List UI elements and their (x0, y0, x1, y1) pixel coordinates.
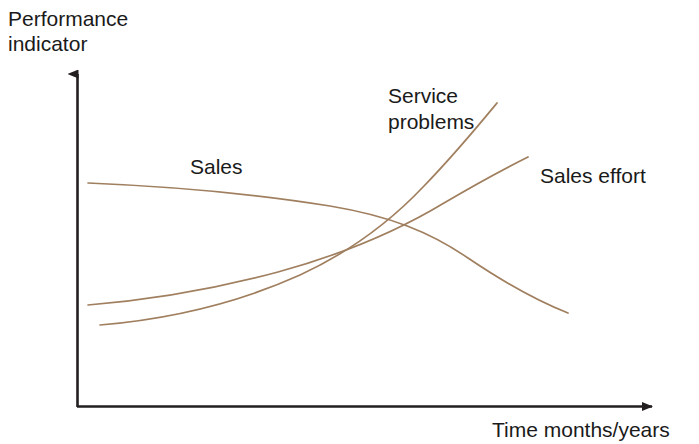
series-curve-sales-effort (88, 157, 528, 305)
y-axis-label-line-2: indicator (8, 32, 87, 55)
y-axis-label-line-1: Performance (8, 7, 128, 30)
series-label-service-problems-line-2: problems (388, 110, 474, 133)
series-label-service-problems: Serviceproblems (388, 83, 474, 135)
series-label-sales-effort: Sales effort (540, 163, 646, 188)
chart-figure: Performanceindicator Time months/years S… (0, 0, 699, 444)
x-axis-label: Time months/years (492, 417, 670, 442)
series-curve-sales (88, 183, 568, 313)
y-axis-label: Performanceindicator (8, 6, 128, 56)
series-curve-service-problems (100, 103, 497, 325)
chart-plot-area (0, 0, 699, 444)
series-label-sales: Sales (190, 154, 243, 179)
series-label-service-problems-line-1: Service (388, 84, 458, 107)
